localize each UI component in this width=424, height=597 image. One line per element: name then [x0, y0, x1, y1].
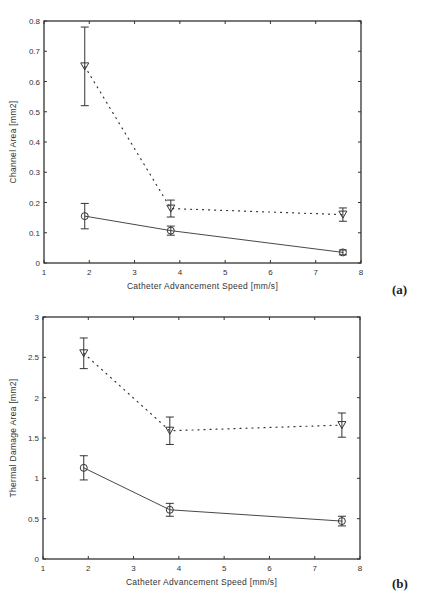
x-tick-label: 1: [41, 564, 46, 573]
x-tick-label: 4: [178, 268, 183, 277]
y-tick-label: 1.5: [28, 434, 40, 443]
y-tick-label: 0.8: [29, 17, 41, 26]
x-tick-label: 2: [86, 564, 91, 573]
error-bar: [338, 413, 346, 437]
error-bar: [80, 456, 88, 480]
series-line: [85, 216, 343, 252]
x-tick-label: 5: [222, 564, 227, 573]
y-axis-label: Thermal Damage Area [mm2]: [8, 379, 18, 498]
y-tick-label: 3: [35, 313, 40, 322]
series-circle: [81, 203, 347, 256]
error-bar: [80, 338, 88, 369]
x-tick-label: 2: [87, 268, 92, 277]
x-tick-label: 6: [267, 564, 272, 573]
y-tick-label: 0: [35, 555, 40, 564]
x-tick-label: 5: [223, 268, 228, 277]
y-tick-label: 1: [35, 474, 40, 483]
chart-channel-area: 12345678Catheter Advancement Speed [mm/s…: [0, 0, 424, 297]
y-tick-label: 0: [36, 259, 41, 268]
x-tick-label: 1: [42, 268, 47, 277]
x-tick-label: 8: [358, 564, 363, 573]
plot-area: [44, 21, 361, 263]
y-tick-label: 0.1: [29, 229, 41, 238]
y-tick-label: 0.5: [28, 515, 40, 524]
series-line: [84, 353, 342, 430]
x-tick-label: 7: [313, 268, 318, 277]
x-tick-label: 6: [268, 268, 273, 277]
y-tick-label: 0.7: [29, 47, 41, 56]
error-bar: [166, 417, 174, 444]
chart-thermal-damage-area: 12345678Catheter Advancement Speed [mm/s…: [0, 297, 424, 594]
y-tick-label: 0.5: [29, 108, 41, 117]
y-tick-label: 2.5: [28, 353, 40, 362]
error-bar: [81, 27, 89, 106]
y-axis: 00.511.522.53Thermal Damage Area [mm2]: [8, 313, 360, 564]
x-axis: 12345678Catheter Advancement Speed [mm/s…: [42, 21, 364, 291]
series-triangle: [81, 27, 347, 221]
error-bar: [81, 203, 89, 228]
panel-label-a: (a): [392, 282, 407, 298]
x-tick-label: 4: [177, 564, 182, 573]
figure: 12345678Catheter Advancement Speed [mm/s…: [0, 0, 424, 597]
panel-label-b: (b): [392, 576, 408, 592]
x-axis-label: Catheter Advancement Speed [mm/s]: [127, 281, 278, 291]
y-axis-label: Channel Area [mm2]: [8, 101, 18, 184]
y-tick-label: 0.3: [29, 168, 41, 177]
series-line: [85, 66, 343, 214]
series-triangle: [80, 338, 346, 444]
y-tick-label: 0.4: [29, 138, 41, 147]
y-tick-label: 0.6: [29, 78, 41, 87]
x-tick-label: 3: [132, 268, 137, 277]
x-tick-label: 7: [312, 564, 317, 573]
x-tick-label: 8: [359, 268, 364, 277]
plot-area: [43, 317, 360, 559]
y-tick-label: 0.2: [29, 199, 41, 208]
x-tick-label: 3: [131, 564, 136, 573]
series-line: [84, 468, 342, 521]
x-axis-label: Catheter Advancement Speed [mm/s]: [126, 577, 277, 587]
series-circle: [80, 456, 346, 526]
y-axis: 00.10.20.30.40.50.60.70.8Channel Area [m…: [8, 17, 361, 268]
y-tick-label: 2: [35, 394, 40, 403]
